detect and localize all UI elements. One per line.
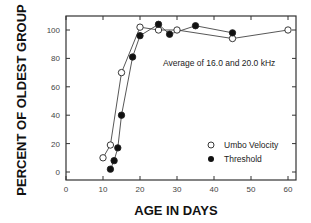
filled-circle-marker	[118, 112, 124, 118]
y-tick-label: 0	[56, 168, 61, 177]
x-axis-title: AGE IN DAYS	[134, 203, 218, 218]
filled-circle-marker	[107, 166, 113, 172]
filled-circle-marker	[166, 31, 172, 37]
legend-umbo-velocity: Umbo Velocity	[224, 140, 279, 150]
x-tick-label: 60	[284, 185, 293, 194]
open-circle-marker	[285, 27, 291, 33]
filled-circle-marker	[192, 23, 198, 29]
x-tick-label: 40	[210, 185, 219, 194]
legend: Umbo Velocity Threshold	[208, 140, 279, 164]
filled-circle-marker	[229, 30, 235, 36]
legend-threshold: Threshold	[224, 154, 262, 164]
x-tick-label: 0	[64, 185, 69, 194]
x-tick-label: 20	[136, 185, 145, 194]
y-axis-title: PERCENT OF OLDEST GROUP	[14, 4, 29, 196]
filled-circle-marker	[155, 21, 161, 27]
chart-annotation: Average of 16.0 and 20.0 kHz	[163, 58, 275, 68]
y-tick-label: 80	[51, 54, 60, 63]
y-tick-label: 20	[51, 140, 60, 149]
filled-circle-marker	[129, 54, 135, 60]
series-line	[103, 27, 288, 158]
open-circle-marker	[100, 155, 106, 161]
filled-circle-marker	[111, 157, 117, 163]
x-tick-label: 30	[173, 185, 182, 194]
line-chart: 0102030405060020406080100 Average of 16.…	[0, 0, 311, 223]
y-tick-label: 60	[51, 83, 60, 92]
open-circle-marker	[137, 24, 143, 30]
series-line	[110, 24, 232, 169]
x-tick-label: 50	[247, 185, 256, 194]
open-circle-marker	[174, 27, 180, 33]
open-circle-marker	[107, 142, 113, 148]
x-tick-label: 10	[99, 185, 108, 194]
filled-circle-icon	[208, 156, 214, 162]
y-tick-label: 100	[47, 26, 61, 35]
filled-circle-marker	[137, 32, 143, 38]
open-circle-icon	[208, 142, 214, 148]
y-tick-label: 40	[51, 111, 60, 120]
filled-circle-marker	[115, 145, 121, 151]
open-circle-marker	[118, 69, 124, 75]
axis-ticks: 0102030405060020406080100	[47, 16, 296, 194]
